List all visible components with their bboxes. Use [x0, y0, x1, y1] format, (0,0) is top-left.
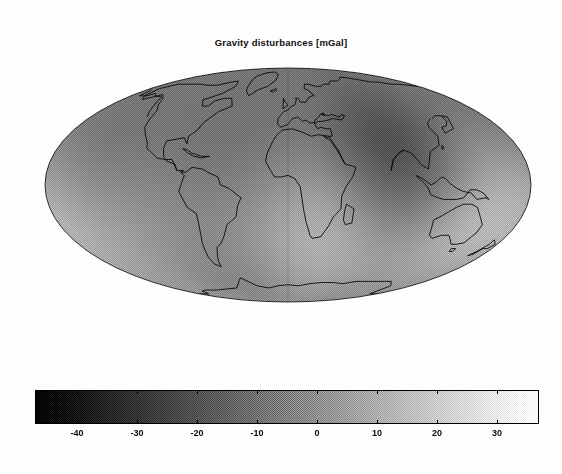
map-axes — [40, 60, 536, 310]
colorbar-tick-mark — [497, 420, 498, 424]
colorbar-tick-label: 20 — [432, 428, 442, 438]
colorbar-tick-label: -20 — [190, 428, 203, 438]
colorbar-tick-mark — [197, 390, 198, 394]
figure-canvas: Gravity disturbances [mGal] -40-30-20-10… — [0, 0, 562, 474]
colorbar-tick-mark — [497, 390, 498, 394]
colorbar-tick-label: 0 — [314, 428, 319, 438]
colorbar-tick-mark — [257, 420, 258, 424]
gravity-map-heatmap — [40, 60, 536, 310]
colorbar-tick-label: -10 — [250, 428, 263, 438]
colorbar-tick-mark — [257, 390, 258, 394]
colorbar-tick-mark — [437, 420, 438, 424]
page-title: Gravity disturbances [mGal] — [0, 37, 562, 48]
colorbar-gradient — [35, 390, 539, 424]
colorbar-tick-mark — [317, 420, 318, 424]
colorbar-tick-mark — [77, 390, 78, 394]
colorbar — [35, 390, 539, 424]
colorbar-tick-mark — [137, 390, 138, 394]
colorbar-tick-label: 10 — [372, 428, 382, 438]
colorbar-tick-mark — [77, 420, 78, 424]
colorbar-tick-label: 30 — [492, 428, 502, 438]
colorbar-tick-mark — [137, 420, 138, 424]
colorbar-tick-mark — [437, 390, 438, 394]
colorbar-tick-labels: -40-30-20-100102030 — [35, 428, 539, 444]
colorbar-tick-label: -40 — [70, 428, 83, 438]
colorbar-tick-mark — [377, 390, 378, 394]
colorbar-tick-mark — [197, 420, 198, 424]
colorbar-tick-mark — [317, 390, 318, 394]
colorbar-tick-label: -30 — [130, 428, 143, 438]
colorbar-tick-mark — [377, 420, 378, 424]
